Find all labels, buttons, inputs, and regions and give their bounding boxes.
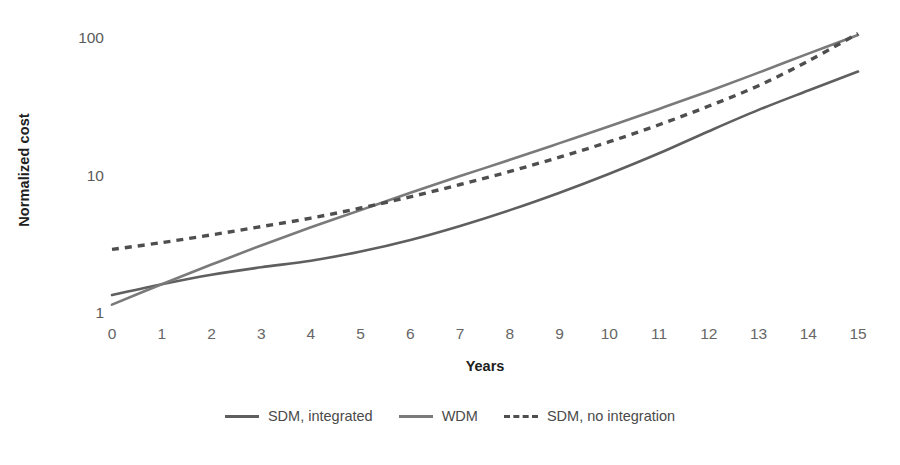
chart-figure: Normalized cost 110100 01234567891011121… xyxy=(0,0,900,465)
legend-swatch-icon xyxy=(399,415,433,418)
x-axis-title: Years xyxy=(112,358,858,374)
legend-label: WDM xyxy=(442,408,478,424)
legend-swatch-icon xyxy=(504,415,538,418)
legend-item-wdm[interactable]: WDM xyxy=(399,408,478,424)
series-line-sdm-integrated xyxy=(112,72,858,296)
chart-legend: SDM, integratedWDMSDM, no integration xyxy=(0,408,900,424)
legend-item-sdm-integrated[interactable]: SDM, integrated xyxy=(225,408,373,424)
legend-swatch-icon xyxy=(225,415,259,418)
legend-label: SDM, no integration xyxy=(547,408,675,424)
plot-area xyxy=(0,0,900,465)
legend-item-sdm-no-integration[interactable]: SDM, no integration xyxy=(504,408,675,424)
legend-label: SDM, integrated xyxy=(268,408,373,424)
series-line-wdm xyxy=(112,35,858,305)
